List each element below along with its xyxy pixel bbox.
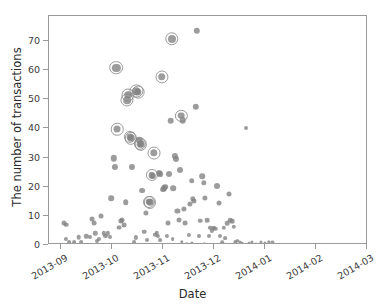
data-point: [180, 240, 183, 243]
data-point: [122, 223, 127, 228]
y-axis-tick-label: 30: [28, 151, 40, 162]
data-point: [197, 234, 201, 238]
scatter-chart-figure: The number of transactions 0102030405060…: [0, 0, 385, 305]
y-axis-tick-label: 40: [28, 122, 40, 133]
data-point: [176, 217, 181, 222]
data-point: [64, 222, 69, 227]
x-axis-tick-mark: [213, 244, 214, 249]
data-point: [167, 118, 174, 125]
data-point: [216, 201, 221, 206]
y-axis-tick-label: 60: [28, 64, 40, 75]
y-axis-tick-label: 20: [28, 180, 40, 191]
data-point-highlight-ring: [148, 146, 161, 159]
data-point: [244, 126, 248, 130]
data-point: [224, 236, 228, 240]
data-point: [190, 242, 193, 244]
x-axis-tick-mark: [162, 244, 163, 249]
data-point: [175, 208, 180, 213]
y-axis-tick-label: 70: [28, 35, 40, 46]
data-point-highlight-ring: [131, 86, 144, 99]
data-point: [192, 198, 197, 203]
data-point: [142, 229, 147, 234]
x-axis-tick-label: 2014-02: [281, 252, 325, 284]
plot-area: [48, 15, 367, 244]
data-point: [139, 188, 145, 194]
x-axis-tick-label: 2013-11: [128, 252, 172, 284]
data-point: [123, 199, 129, 205]
data-point: [213, 226, 217, 230]
data-point: [254, 242, 257, 244]
data-point: [132, 240, 136, 244]
y-axis-tick-mark: [43, 244, 48, 245]
y-axis-tick-label: 10: [28, 209, 40, 220]
data-point: [192, 104, 198, 110]
data-point: [207, 234, 211, 238]
data-point: [218, 234, 222, 238]
data-point: [241, 242, 244, 244]
x-axis-tick-label: 2013-12: [179, 252, 223, 284]
data-point: [108, 235, 112, 239]
data-point: [226, 191, 231, 196]
data-point: [97, 237, 101, 241]
data-point: [186, 232, 190, 236]
data-point: [199, 173, 205, 179]
data-point: [67, 240, 71, 244]
data-point: [111, 155, 117, 161]
data-point: [179, 117, 186, 124]
data-point: [214, 183, 220, 189]
x-axis-tick-label: 2014-01: [230, 252, 274, 284]
x-axis-tick-mark: [111, 244, 112, 249]
data-point: [205, 218, 210, 223]
data-point: [232, 225, 236, 229]
data-point: [173, 156, 179, 162]
data-point-highlight-ring: [111, 123, 124, 136]
data-point: [158, 238, 162, 242]
data-point: [185, 242, 189, 244]
data-point-highlight-ring: [155, 70, 168, 83]
y-axis-tick-label: 0: [34, 239, 40, 250]
data-point: [189, 178, 195, 184]
data-point: [194, 28, 200, 34]
x-axis-tick-mark: [264, 244, 265, 249]
data-point: [143, 210, 148, 215]
data-point: [112, 164, 118, 170]
data-point: [177, 167, 183, 173]
data-point: [88, 235, 92, 239]
data-point: [120, 217, 125, 222]
data-point: [230, 219, 235, 224]
data-point: [259, 240, 262, 243]
x-axis-tick-label: 2014-03: [332, 252, 376, 284]
data-point: [171, 185, 177, 191]
x-axis-tick-mark: [60, 244, 61, 249]
data-point: [201, 180, 206, 185]
data-point: [166, 171, 172, 177]
data-point-highlight-ring: [144, 196, 156, 208]
data-point: [171, 237, 175, 241]
data-point: [163, 184, 169, 190]
data-point: [271, 240, 274, 243]
data-point: [91, 220, 96, 225]
data-point: [76, 235, 81, 240]
data-point: [222, 226, 226, 230]
data-point: [182, 206, 187, 211]
data-point: [99, 213, 104, 218]
data-point: [220, 240, 224, 244]
data-point-highlight-ring: [165, 32, 179, 46]
data-point: [157, 172, 163, 178]
data-point: [73, 240, 77, 244]
data-point: [129, 164, 135, 170]
data-point: [165, 234, 169, 238]
data-point: [134, 235, 138, 239]
data-point-highlight-ring: [110, 61, 124, 75]
x-axis-tick-label: 2013-10: [77, 252, 121, 284]
data-point: [166, 220, 171, 225]
x-axis-tick-mark: [315, 244, 316, 249]
data-point: [183, 220, 188, 225]
data-point: [93, 231, 97, 235]
data-point: [203, 195, 208, 200]
data-point: [109, 196, 115, 202]
y-axis-tick-labels: 010203040506070: [0, 0, 40, 305]
data-point: [79, 240, 83, 244]
data-point-highlight-ring: [135, 138, 147, 150]
x-axis-tick-mark: [366, 244, 367, 249]
